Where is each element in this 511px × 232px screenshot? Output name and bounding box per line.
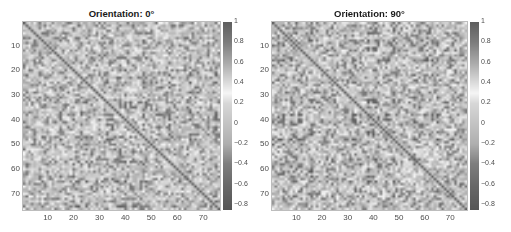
colorbar-tick-label: −0.4	[481, 159, 495, 166]
x-tick-label: 30	[338, 213, 358, 222]
y-tick-label: 30	[251, 90, 269, 99]
y-tick-label: 20	[251, 65, 269, 74]
heatmap-plot-area	[272, 22, 467, 210]
colorbar	[470, 22, 479, 210]
chart-title: Orientation: 90°	[272, 8, 467, 19]
colorbar-tick-label: 0.8	[481, 37, 491, 44]
colorbar-tick-label: −0.6	[481, 180, 495, 187]
y-tick-label: 70	[251, 189, 269, 198]
x-tick-label: 20	[312, 213, 332, 222]
colorbar-tick-label: 0.6	[481, 58, 491, 65]
colorbar-tick-label: 0.2	[481, 98, 491, 105]
colorbar-tick-label: 0	[481, 119, 485, 126]
x-tick-label: 10	[286, 213, 306, 222]
heatmap-canvas	[272, 22, 467, 210]
x-tick-label: 60	[415, 213, 435, 222]
y-tick-label: 60	[251, 164, 269, 173]
colorbar-tick-label: 1	[481, 17, 485, 24]
y-tick-label: 40	[251, 115, 269, 124]
colorbar-tick-label: −0.8	[481, 200, 495, 207]
colorbar-tick-label: 0.4	[481, 78, 491, 85]
y-tick-label: 10	[251, 41, 269, 50]
colorbar-tick-label: −0.2	[481, 139, 495, 146]
x-tick-label: 50	[389, 213, 409, 222]
x-tick-label: 70	[440, 213, 460, 222]
heatmap-panel-90deg: Orientation: 90° 10203040506070 10203040…	[0, 0, 511, 232]
y-tick-label: 50	[251, 139, 269, 148]
x-tick-label: 40	[363, 213, 383, 222]
